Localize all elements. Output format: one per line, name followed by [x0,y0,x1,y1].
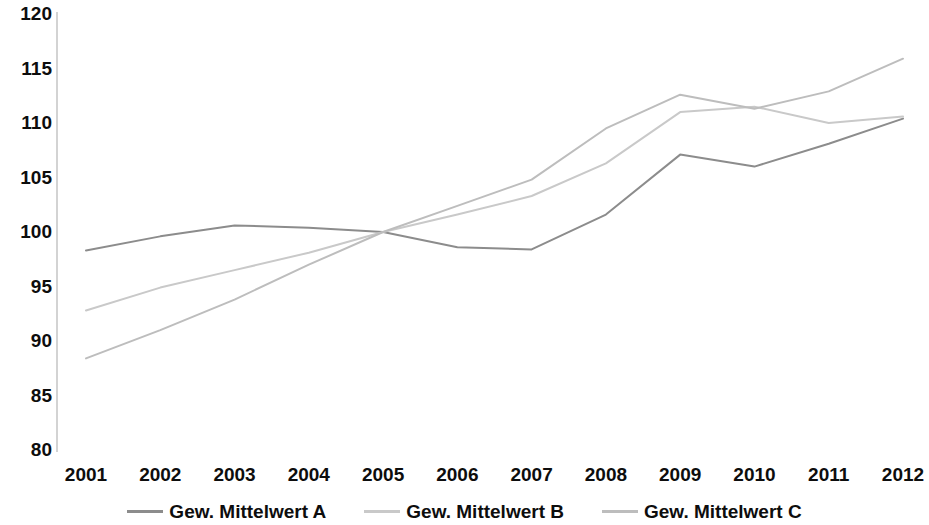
legend-entry-b[interactable]: Gew. Mittelwert B [364,502,564,521]
legend-label: Gew. Mittelwert C [644,502,802,521]
x-axis-tick-label: 2008 [576,465,636,484]
x-axis-tick-labels: 2001200220032004200520062007200820092010… [0,0,929,525]
x-axis-tick-label: 2007 [502,465,562,484]
x-axis-tick-label: 2002 [130,465,190,484]
legend-line-swatch-icon [364,510,400,513]
x-axis-tick-label: 2005 [353,465,413,484]
x-axis-tick-label: 2001 [56,465,116,484]
legend-entry-a[interactable]: Gew. Mittelwert A [127,502,326,521]
x-axis-tick-label: 2004 [279,465,339,484]
legend-line-swatch-icon [602,510,638,513]
legend-entry-c[interactable]: Gew. Mittelwert C [602,502,802,521]
x-axis-tick-label: 2009 [650,465,710,484]
legend-label: Gew. Mittelwert A [169,502,326,521]
x-axis-tick-label: 2012 [873,465,929,484]
legend-line-swatch-icon [127,510,163,513]
x-axis-tick-label: 2006 [427,465,487,484]
x-axis-tick-label: 2003 [205,465,265,484]
x-axis-tick-label: 2011 [799,465,859,484]
chart-legend: Gew. Mittelwert AGew. Mittelwert BGew. M… [0,498,929,525]
line-chart: 12011511010510095908580 2001200220032004… [0,0,929,525]
x-axis-tick-label: 2010 [724,465,784,484]
legend-label: Gew. Mittelwert B [406,502,564,521]
